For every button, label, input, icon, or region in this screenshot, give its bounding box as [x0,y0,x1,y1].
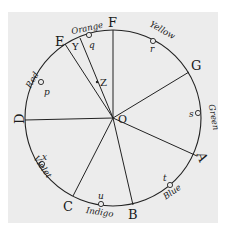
marker-r [150,38,155,43]
marker-q [86,32,91,37]
label-G: G [191,58,201,73]
label-Z: Z [100,77,107,88]
label-D: D [12,114,27,124]
label-A: A [193,149,211,164]
label-F: F [108,15,117,30]
label-p: p [44,87,50,97]
marker-u [98,201,103,206]
label-t: t [163,173,167,183]
label-r: r [150,44,155,54]
marker-p [38,79,43,84]
label-red: Red [23,70,41,91]
label-blue: Blue [160,182,183,202]
label-E: E [55,34,65,49]
label-O: O [118,113,127,126]
radius-OD [25,118,113,120]
label-C: C [63,199,73,214]
label-Y: Y [71,41,79,52]
marker-s [195,110,200,115]
label-green: Green [207,103,221,131]
label-B: B [128,207,138,222]
label-s: s [189,109,194,119]
radius-OG [113,72,189,118]
colour-circle-diagram: F G A B C D E Y Z O Orange Yellow Green … [0,0,229,233]
radius-OC [73,118,113,196]
label-q: q [89,40,95,50]
radius-OB [113,118,133,205]
line-OY [80,38,113,118]
label-u: u [98,191,104,201]
label-indigo: Indigo [84,205,114,219]
label-x: x [42,152,47,162]
point-z [96,81,98,83]
